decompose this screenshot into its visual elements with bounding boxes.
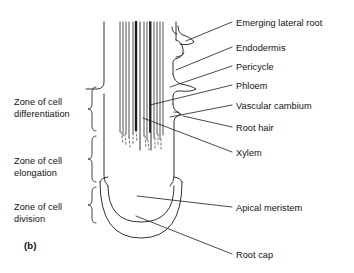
- leader-vascular-cambium: [170, 105, 232, 117]
- callout-label-endodermis: Endodermis: [236, 43, 286, 55]
- leader-apical-meristem: [137, 196, 232, 207]
- zone-brace-elongation: [88, 136, 96, 182]
- callout-label-root-cap: Root cap: [236, 250, 273, 262]
- zone-label-division: Zone of cell division: [14, 201, 62, 226]
- zone-brace-division: [88, 187, 96, 223]
- panel-label: (b): [24, 240, 36, 252]
- callout-label-phloem: Phloem: [236, 81, 267, 93]
- leader-endodermis: [176, 47, 232, 70]
- root-right-epidermis-outline: [170, 22, 196, 186]
- callout-label-pericycle: Pericycle: [236, 62, 274, 74]
- callout-label-root-hair: Root hair: [236, 123, 274, 135]
- vascular-strand-tapered-tips: [121, 130, 161, 150]
- xylem-strands: [120, 22, 133, 137]
- root-diagram-svg: [0, 0, 354, 273]
- emerging-lateral-root-shape: [172, 26, 194, 45]
- leader-root-cap: [136, 216, 232, 254]
- leader-pericycle: [170, 66, 232, 87]
- callout-label-apical-meristem: Apical meristem: [236, 203, 302, 215]
- root-anatomy-figure: Zone of cell differentiation Zone of cel…: [0, 0, 354, 273]
- apical-meristem-outline: [108, 186, 174, 222]
- zone-brace-differentiation: [88, 87, 96, 131]
- leader-xylem: [143, 118, 232, 152]
- callout-label-emerging-lateral-root: Emerging lateral root: [236, 18, 322, 30]
- leader-phloem: [150, 85, 232, 105]
- zone-label-differentiation: Zone of cell differentiation: [14, 96, 70, 121]
- root-left-epidermis-outline: [86, 22, 108, 186]
- zone-label-elongation: Zone of cell elongation: [14, 155, 62, 180]
- callout-label-vascular-cambium: Vascular cambium: [236, 101, 312, 113]
- leader-emerging-lateral-root: [186, 22, 232, 41]
- leader-root-hair: [183, 116, 232, 127]
- callout-label-xylem: Xylem: [236, 148, 262, 160]
